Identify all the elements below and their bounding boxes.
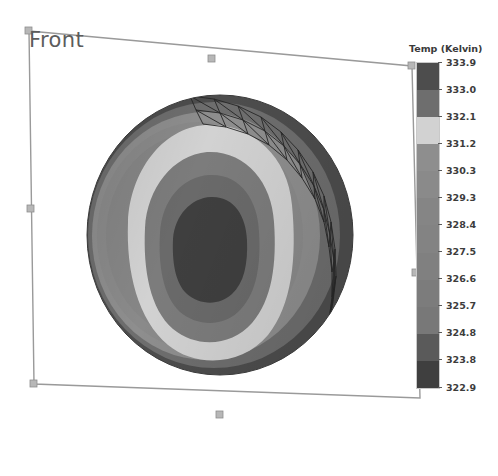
sphere-contour-render[interactable] (0, 0, 420, 420)
legend-tick-label: 324.8 (446, 327, 476, 338)
legend-tick-list: 333.9333.0332.1331.2330.3329.3328.4327.5… (438, 62, 498, 387)
legend-band (417, 361, 439, 388)
legend-tick-label: 333.0 (446, 84, 476, 95)
legend-tick-label: 330.3 (446, 165, 476, 176)
legend-tick-mark (438, 305, 442, 306)
legend-band (417, 253, 439, 280)
legend-tick-label: 331.2 (446, 138, 476, 149)
legend-tick-mark (438, 359, 442, 360)
legend-band (417, 307, 439, 334)
legend-band (417, 334, 439, 361)
legend-band (417, 171, 439, 198)
legend-band (417, 280, 439, 307)
legend-band (417, 117, 439, 144)
legend-tick-mark (438, 143, 442, 144)
legend-tick-label: 323.8 (446, 354, 476, 365)
legend-tick-mark (438, 332, 442, 333)
contour-plot-object[interactable] (0, 0, 420, 420)
legend-tick-mark (438, 251, 442, 252)
legend-tick-mark (438, 62, 442, 63)
legend-band (417, 63, 439, 90)
legend-tick-mark (438, 278, 442, 279)
legend-tick-label: 332.1 (446, 111, 476, 122)
legend-tick-label: 333.9 (446, 57, 476, 68)
legend-tick-mark (438, 387, 442, 388)
legend-tick-mark (438, 89, 442, 90)
color-legend[interactable]: Temp (Kelvin) 333.9333.0332.1331.2330.33… (406, 40, 498, 390)
legend-band (417, 90, 439, 117)
visualization-canvas: Front Temp (Kelvin) 333.9333.0332.1331.2… (0, 0, 498, 476)
orientation-label: Front (29, 30, 84, 51)
legend-tick-mark (438, 116, 442, 117)
legend-title: Temp (Kelvin) (409, 43, 482, 54)
legend-band (417, 144, 439, 171)
legend-tick-label: 325.7 (446, 300, 476, 311)
legend-tick-label: 327.5 (446, 246, 476, 257)
sphere-shading (87, 95, 353, 375)
legend-band (417, 198, 439, 225)
legend-band (417, 225, 439, 252)
legend-tick-label: 329.3 (446, 192, 476, 203)
legend-colorbar[interactable] (416, 62, 440, 389)
legend-tick-label: 328.4 (446, 219, 476, 230)
legend-tick-label: 322.9 (446, 382, 476, 393)
legend-tick-mark (438, 197, 442, 198)
legend-tick-mark (438, 170, 442, 171)
legend-tick-mark (438, 224, 442, 225)
legend-tick-label: 326.6 (446, 273, 476, 284)
